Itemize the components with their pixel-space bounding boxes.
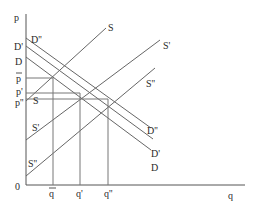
demand-curve-d [26, 57, 151, 150]
label-s-right: S [108, 22, 114, 33]
demand-curve-d-double-prime [26, 38, 151, 128]
diagram-canvas: p 0 q D'' D' D p p' p'' S S' S'' S S' [0, 0, 255, 208]
label-p-bar: p [16, 73, 21, 84]
label-q-bar: q [49, 188, 54, 199]
label-q-prime: q' [76, 188, 83, 199]
label-s-double-prime-left: S'' [28, 158, 37, 169]
y-axis-label: p [14, 12, 19, 23]
label-d-prime-left: D' [14, 41, 23, 52]
label-s-prime-right: S' [163, 40, 171, 51]
label-d-left: D [15, 56, 22, 67]
label-s-left: S [33, 95, 39, 106]
label-d-prime-right: D' [151, 148, 160, 159]
supply-demand-diagram: p 0 q D'' D' D p p' p'' S S' S'' S S' [0, 0, 255, 208]
origin-label: 0 [15, 181, 20, 192]
label-p-prime: p' [16, 86, 23, 97]
label-d-double-prime-right: D'' [147, 125, 158, 136]
label-q-double-prime: q'' [104, 188, 113, 199]
supply-curve-s-prime [26, 40, 160, 140]
label-d-right: D [151, 162, 158, 173]
label-s-prime-left: S' [32, 122, 40, 133]
label-p-double-prime: p'' [15, 97, 24, 108]
x-axis-label: q [228, 190, 233, 201]
label-d-double-prime-left: D'' [31, 34, 42, 45]
label-s-double-prime-right: S'' [146, 78, 155, 89]
